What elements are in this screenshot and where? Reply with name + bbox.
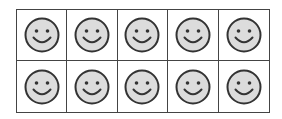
smiley-face-icon <box>24 17 60 53</box>
ten-frame-cell <box>168 61 218 112</box>
smiley-face-icon <box>74 69 110 105</box>
smiley-face-icon <box>74 17 110 53</box>
ten-frame <box>16 9 270 113</box>
smiley-face-icon <box>226 69 262 105</box>
ten-frame-cell <box>67 10 117 61</box>
smiley-face-icon <box>175 69 211 105</box>
ten-frame-cell <box>17 10 67 61</box>
ten-frame-cell <box>118 10 168 61</box>
smiley-face-icon <box>124 17 160 53</box>
smiley-face-icon <box>24 69 60 105</box>
ten-frame-cell <box>17 61 67 112</box>
ten-frame-cell <box>67 61 117 112</box>
smiley-face-icon <box>226 17 262 53</box>
smiley-face-icon <box>124 69 160 105</box>
ten-frame-cell <box>219 61 269 112</box>
ten-frame-cell <box>168 10 218 61</box>
ten-frame-cell <box>219 10 269 61</box>
ten-frame-cell <box>118 61 168 112</box>
smiley-face-icon <box>175 17 211 53</box>
